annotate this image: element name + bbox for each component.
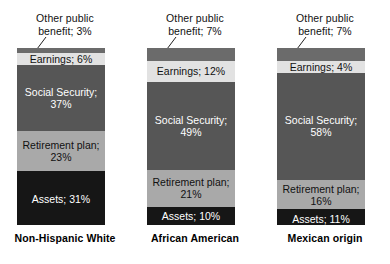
- bar-segment-label: Assets; 11%: [277, 213, 365, 225]
- bar-segment-label: Earnings; 12%: [147, 65, 235, 77]
- bar-segment-label: Social Security; 58%: [277, 114, 365, 138]
- group-label: Non-Hispanic White: [3, 232, 127, 244]
- bar-segment-label: Retirement plan; 23%: [17, 139, 105, 163]
- bar-segment-label: Assets; 31%: [17, 193, 105, 205]
- stacked-bar: Earnings; 4%Social Security; 58%Retireme…: [277, 48, 365, 225]
- bar-segment-label: Earnings; 6%: [17, 53, 105, 65]
- bar-segment: Retirement plan; 16%: [277, 180, 365, 210]
- bar-segment: Assets; 10%: [147, 207, 235, 225]
- bar-segment-label: Social Security; 49%: [147, 114, 235, 138]
- bar-segment: [147, 48, 235, 61]
- bar-segment-label: Retirement plan; 16%: [277, 183, 365, 207]
- bar-segment: Social Security; 58%: [277, 73, 365, 180]
- stacked-bar-chart: Other public benefit; 3%Earnings; 6%Soci…: [0, 0, 390, 264]
- stacked-bar: Earnings; 6%Social Security; 37%Retireme…: [17, 48, 105, 225]
- other-public-benefit-callout: Other public benefit; 7%: [133, 12, 257, 38]
- group-label: African American: [133, 232, 257, 244]
- bar-segment: Retirement plan; 21%: [147, 170, 235, 208]
- bar-segment-label: Assets; 10%: [147, 210, 235, 222]
- stacked-bar: Earnings; 12%Social Security; 49%Retirem…: [147, 48, 235, 225]
- bar-segment: Assets; 31%: [17, 171, 105, 225]
- bar-segment: Retirement plan; 23%: [17, 131, 105, 172]
- bar-segment: Assets; 11%: [277, 209, 365, 225]
- bar-segment-label: Retirement plan; 21%: [147, 176, 235, 200]
- bar-segment: Earnings; 6%: [17, 53, 105, 65]
- other-public-benefit-callout: Other public benefit; 7%: [263, 12, 387, 38]
- bar-segment: Earnings; 4%: [277, 61, 365, 73]
- chart-column: Other public benefit; 3%Earnings; 6%Soci…: [3, 0, 127, 264]
- bar-segment: Earnings; 12%: [147, 61, 235, 82]
- bar-segment: [277, 48, 365, 61]
- chart-column: Other public benefit; 7%Earnings; 4%Soci…: [263, 0, 387, 264]
- bar-segment-label: Earnings; 4%: [277, 61, 365, 73]
- chart-column: Other public benefit; 7%Earnings; 12%Soc…: [133, 0, 257, 264]
- other-public-benefit-callout: Other public benefit; 3%: [3, 12, 127, 38]
- bar-segment: Social Security; 37%: [17, 65, 105, 130]
- bar-segment: Social Security; 49%: [147, 82, 235, 170]
- group-label: Mexican origin: [263, 232, 387, 244]
- bar-segment-label: Social Security; 37%: [17, 86, 105, 110]
